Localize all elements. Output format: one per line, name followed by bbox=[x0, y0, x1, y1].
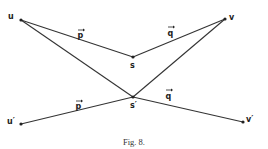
figure-8-diagram: u v s s′ u′ v′ p q p q Fig. 8. bbox=[0, 0, 268, 149]
svg-text:p: p bbox=[78, 31, 84, 40]
label-u-prime: u′ bbox=[7, 117, 15, 126]
point-u-prime bbox=[19, 122, 22, 125]
vector-p-top: p bbox=[78, 29, 86, 40]
svg-text:q: q bbox=[166, 92, 172, 101]
label-s-prime: s′ bbox=[130, 101, 137, 110]
svg-text:p: p bbox=[76, 102, 82, 111]
label-u: u bbox=[8, 12, 14, 21]
point-u bbox=[19, 18, 22, 21]
point-s-prime bbox=[131, 95, 134, 98]
figure-caption: Fig. 8. bbox=[123, 137, 145, 147]
segment-s-v bbox=[133, 19, 225, 57]
vector-q-bottom: q bbox=[166, 89, 174, 101]
segment-sprime-vprime bbox=[133, 97, 243, 122]
segment-v-sprime bbox=[133, 19, 225, 97]
vector-q-top: q bbox=[168, 26, 176, 38]
point-v-prime bbox=[241, 120, 244, 123]
label-v-prime: v′ bbox=[246, 115, 253, 124]
point-v bbox=[223, 17, 226, 20]
svg-text:q: q bbox=[168, 29, 174, 38]
label-v: v bbox=[229, 13, 235, 22]
label-s: s bbox=[130, 61, 135, 70]
point-s bbox=[131, 55, 134, 58]
